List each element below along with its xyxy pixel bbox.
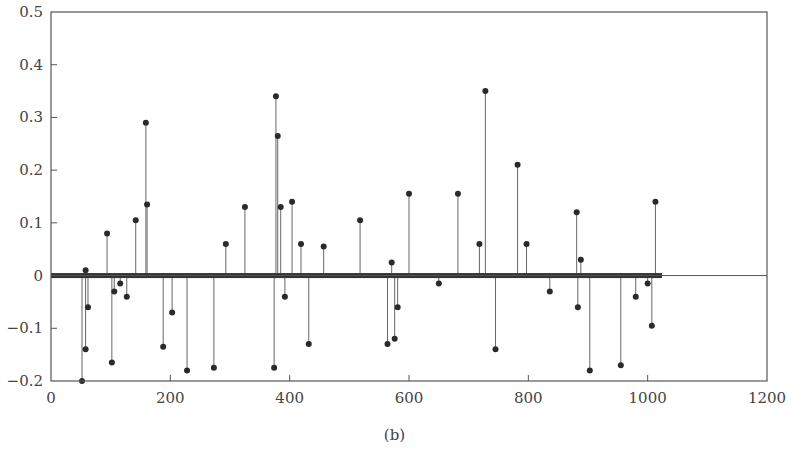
stem-marker xyxy=(649,323,655,329)
y-tick-label: 0.2 xyxy=(19,161,43,179)
x-tick-label: 400 xyxy=(275,389,304,407)
stem-marker xyxy=(515,162,521,168)
stem-marker xyxy=(223,241,229,247)
stem-marker xyxy=(618,362,624,368)
stem-marker xyxy=(160,344,166,350)
stem-marker xyxy=(124,294,130,300)
stem-marker xyxy=(282,294,288,300)
stem-marker xyxy=(547,288,553,294)
x-tick-label: 1000 xyxy=(629,389,667,407)
stem-marker xyxy=(357,217,363,223)
stem-marker xyxy=(211,365,217,371)
stem-marker xyxy=(455,191,461,197)
stem-marker xyxy=(85,304,91,310)
stem-marker xyxy=(83,267,89,273)
stem-marker xyxy=(298,241,304,247)
stem-marker xyxy=(587,367,593,373)
stem-chart: 020040060080010001200 −0.2−0.100.10.20.3… xyxy=(0,0,789,420)
stem-marker xyxy=(83,346,89,352)
y-tick-label: 0.1 xyxy=(19,214,43,232)
stem-marker xyxy=(389,259,395,265)
stem-marker xyxy=(436,280,442,286)
figure-caption: (b) xyxy=(0,426,789,444)
stem-marker xyxy=(111,288,117,294)
stem-marker xyxy=(395,304,401,310)
stem-marker xyxy=(278,204,284,210)
y-tick-label: 0.3 xyxy=(19,108,43,126)
stem-series xyxy=(79,88,658,384)
stem-marker xyxy=(273,93,279,99)
x-axis: 020040060080010001200 xyxy=(46,375,786,407)
x-tick-label: 1200 xyxy=(748,389,786,407)
stem-marker xyxy=(385,341,391,347)
y-tick-label: 0 xyxy=(33,267,43,285)
x-tick-label: 800 xyxy=(514,389,543,407)
stem-marker xyxy=(242,204,248,210)
stem-marker xyxy=(117,280,123,286)
stem-marker xyxy=(575,304,581,310)
stem-marker xyxy=(392,336,398,342)
stem-marker xyxy=(476,241,482,247)
stem-marker xyxy=(143,120,149,126)
y-axis: −0.2−0.100.10.20.30.40.5 xyxy=(7,3,57,390)
stem-marker xyxy=(275,133,281,139)
stem-marker xyxy=(524,241,530,247)
stem-marker xyxy=(652,199,658,205)
stem-marker xyxy=(289,199,295,205)
stem-marker xyxy=(184,367,190,373)
stem-marker xyxy=(493,346,499,352)
stem-marker xyxy=(321,244,327,250)
stem-marker xyxy=(633,294,639,300)
stem-marker xyxy=(574,209,580,215)
stem-marker xyxy=(104,230,110,236)
y-tick-label: −0.1 xyxy=(7,319,43,337)
stem-marker xyxy=(578,257,584,263)
stem-marker xyxy=(169,309,175,315)
y-tick-label: 0.4 xyxy=(19,56,43,74)
stem-marker xyxy=(306,341,312,347)
y-tick-label: −0.2 xyxy=(7,372,43,390)
x-tick-label: 0 xyxy=(46,389,56,407)
stem-marker xyxy=(406,191,412,197)
x-tick-label: 600 xyxy=(395,389,424,407)
stem-marker xyxy=(271,365,277,371)
x-tick-label: 200 xyxy=(156,389,185,407)
y-tick-label: 0.5 xyxy=(19,3,43,21)
stem-marker xyxy=(482,88,488,94)
stem-marker xyxy=(144,201,150,207)
stem-marker xyxy=(645,280,651,286)
stem-marker xyxy=(109,360,115,366)
stem-marker xyxy=(133,217,139,223)
